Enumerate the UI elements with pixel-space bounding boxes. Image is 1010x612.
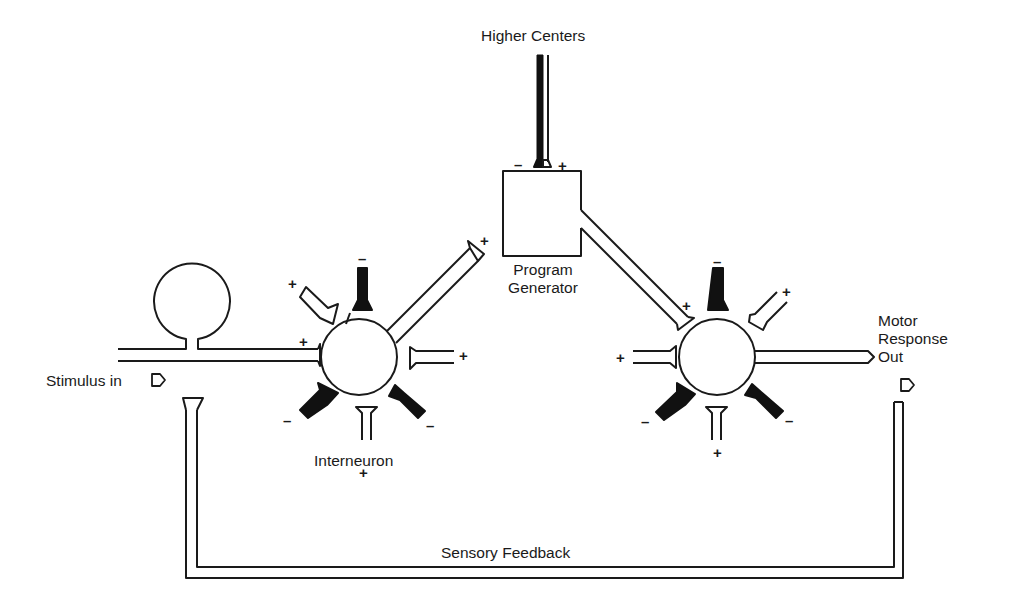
motor-left-plus: + — [616, 350, 625, 365]
motor-neuron-soma — [679, 319, 755, 395]
program-generator-label-line2: Generator — [497, 279, 589, 297]
interneuron-topleft-plus: + — [288, 276, 297, 291]
neural-circuit-diagram — [0, 0, 1010, 612]
program-generator-label: Program Generator — [497, 261, 589, 297]
interneuron-bottom-plus: + — [359, 465, 368, 480]
higher-centers-fiber — [534, 55, 551, 167]
interneuron-label: Interneuron — [314, 452, 393, 470]
interneuron-top-minus: – — [358, 251, 366, 266]
program-generator-axon — [581, 210, 694, 330]
sensory-feedback-label: Sensory Feedback — [441, 544, 570, 562]
motor-label-line2: Response — [878, 330, 948, 348]
interneuron-soma — [321, 319, 397, 395]
higher-centers-label: Higher Centers — [481, 27, 585, 45]
motor-synapses — [633, 268, 787, 440]
program-generator-label-line1: Program — [497, 261, 589, 279]
interneuron-synapses — [300, 268, 454, 440]
motor-bottomright-minus: – — [785, 413, 793, 428]
stimulus-in-arrow-icon — [152, 374, 165, 386]
motor-response-label: Motor Response Out — [878, 312, 948, 366]
interneuron-left-plus: + — [299, 334, 308, 349]
interneuron-right-plus: + — [459, 348, 468, 363]
motor-label-line3: Out — [878, 348, 948, 366]
motor-topright-plus: + — [782, 284, 791, 299]
stimulus-in-label: Stimulus in — [46, 372, 122, 390]
motor-bottomleft-minus: – — [641, 414, 649, 429]
interneuron-axon-plus: + — [480, 233, 489, 248]
higher-centers-minus: – — [514, 157, 522, 172]
interneuron-bottomright-minus: – — [426, 418, 434, 433]
motor-pg-plus: + — [682, 298, 691, 313]
interneuron-bottomleft-minus: – — [283, 413, 291, 428]
motor-bottom-plus: + — [713, 445, 722, 460]
interneuron-axon — [387, 241, 484, 343]
motor-axon — [755, 351, 874, 363]
program-generator-box — [503, 171, 581, 256]
motor-out-arrow-icon — [901, 379, 914, 391]
motor-top-minus: – — [713, 254, 721, 269]
motor-label-line1: Motor — [878, 312, 948, 330]
higher-centers-plus: + — [558, 158, 567, 173]
